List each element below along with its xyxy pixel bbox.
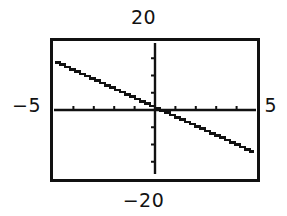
plot-frame <box>50 38 260 182</box>
x-axis-min-label: −5 <box>12 96 41 115</box>
x-axis-max-label: 5 <box>264 96 277 115</box>
plot-canvas <box>53 41 257 179</box>
graph-figure: 20 −5 5 −20 <box>0 0 287 216</box>
y-axis-max-label: 20 <box>0 8 287 27</box>
y-axis-min-label: −20 <box>0 191 287 210</box>
